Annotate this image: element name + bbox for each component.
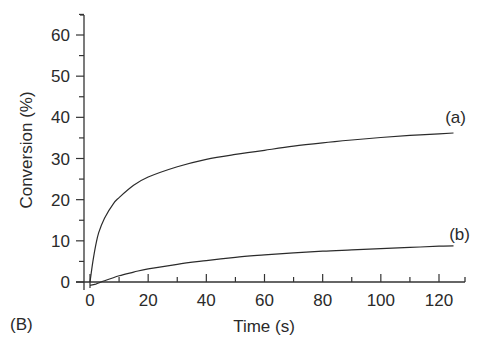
axis-labels: 0102030405060020406080100120Time (s)Conv…: [17, 26, 470, 336]
axes: [76, 14, 465, 290]
y-tick-label: 50: [51, 67, 70, 86]
y-tick-label: 40: [51, 108, 70, 127]
x-tick-label: 100: [367, 291, 395, 310]
y-tick-label: 60: [51, 26, 70, 45]
line-chart: 0102030405060020406080100120Time (s)Conv…: [0, 0, 480, 357]
series-label-b: (b): [449, 225, 470, 244]
y-tick-label: 30: [51, 150, 70, 169]
x-tick-label: 120: [425, 291, 453, 310]
x-tick-label: 60: [255, 291, 274, 310]
y-tick-label: 0: [61, 273, 70, 292]
y-tick-label: 20: [51, 191, 70, 210]
x-tick-label: 0: [85, 291, 94, 310]
series-line-b: [90, 246, 454, 285]
y-axis-title: Conversion (%): [17, 91, 36, 208]
x-tick-label: 40: [197, 291, 216, 310]
curves: [90, 133, 454, 285]
series-label-a: (a): [445, 108, 466, 127]
y-tick-label: 10: [51, 232, 70, 251]
x-axis-title: Time (s): [233, 317, 295, 336]
x-tick-label: 20: [139, 291, 158, 310]
panel-label: (B): [10, 315, 33, 335]
x-tick-label: 80: [313, 291, 332, 310]
series-line-a: [90, 133, 454, 282]
